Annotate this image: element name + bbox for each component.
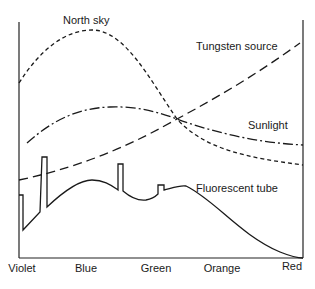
x-tick-blue: Blue [75,262,97,274]
sunlight-label: Sunlight [248,119,288,131]
fluorescent-tube-label: Fluorescent tube [196,182,278,194]
x-tick-red: Red [282,260,302,272]
north-sky-label: North sky [63,14,109,26]
tungsten-source-label: Tungsten source [196,40,278,52]
x-tick-green: Green [141,262,172,274]
tungsten-curve [19,43,300,180]
x-tick-orange: Orange [204,262,241,274]
x-tick-violet: Violet [8,262,35,274]
fluorescent-curve [19,157,303,258]
